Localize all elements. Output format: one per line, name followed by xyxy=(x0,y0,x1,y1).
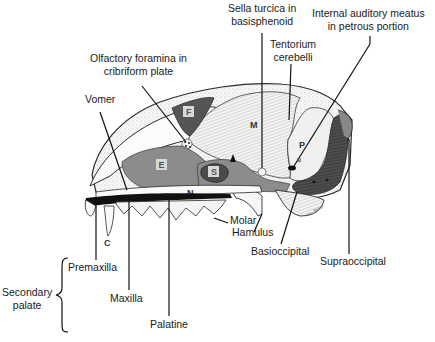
label-hamulus: Hamulus xyxy=(232,226,273,239)
label-sella-line1: Sella turcica in xyxy=(228,2,296,15)
label-palatine: Palatine xyxy=(150,318,188,331)
letter-B: B xyxy=(297,154,301,167)
label-sella-line2: basisphenoid xyxy=(228,15,296,28)
label-supraoccipital: Supraoccipital xyxy=(320,255,386,268)
letter-S: S xyxy=(211,167,217,177)
label-secondary-line1: Secondary xyxy=(2,286,52,299)
label-auditory-line1: Internal auditory meatus xyxy=(312,7,425,20)
label-basioccipital: Basioccipital xyxy=(251,245,309,258)
letter-P: P xyxy=(299,139,305,152)
label-internal-auditory-meatus: Internal auditory meatus in petrous port… xyxy=(312,7,425,33)
letter-C: C xyxy=(104,238,111,248)
label-tentorium-line2: cerebelli xyxy=(270,51,316,64)
occipital-dot-1 xyxy=(313,181,316,183)
label-olfactory-line1: Olfactory foramina in xyxy=(90,52,187,65)
label-tentorium-line1: Tentorium xyxy=(270,38,316,51)
letter-M: M xyxy=(250,119,258,132)
skull-diagram: F E S N C xyxy=(0,0,435,342)
label-tentorium-cerebelli: Tentorium cerebelli xyxy=(270,38,316,64)
label-olfactory-foramina: Olfactory foramina in cribriform plate xyxy=(90,52,187,78)
label-olfactory-line2: cribriform plate xyxy=(90,65,187,78)
auditory-meatus xyxy=(288,166,296,171)
letter-F: F xyxy=(186,107,192,117)
label-secondary-line2: palate xyxy=(2,299,52,312)
label-vomer: Vomer xyxy=(85,93,115,106)
letter-E: E xyxy=(159,160,165,170)
label-premaxilla: Premaxilla xyxy=(68,261,117,274)
label-maxilla: Maxilla xyxy=(110,292,143,305)
label-sella-turcica: Sella turcica in basisphenoid xyxy=(228,2,296,28)
occipital-dot-2 xyxy=(326,179,329,181)
cheek-teeth xyxy=(116,200,226,220)
sella-turcica-marker xyxy=(258,168,266,176)
secondary-palate-brace xyxy=(56,258,68,332)
canine-tooth xyxy=(104,206,114,236)
label-secondary-palate: Secondary palate xyxy=(2,286,52,312)
label-auditory-line2: in petrous portion xyxy=(312,20,425,33)
